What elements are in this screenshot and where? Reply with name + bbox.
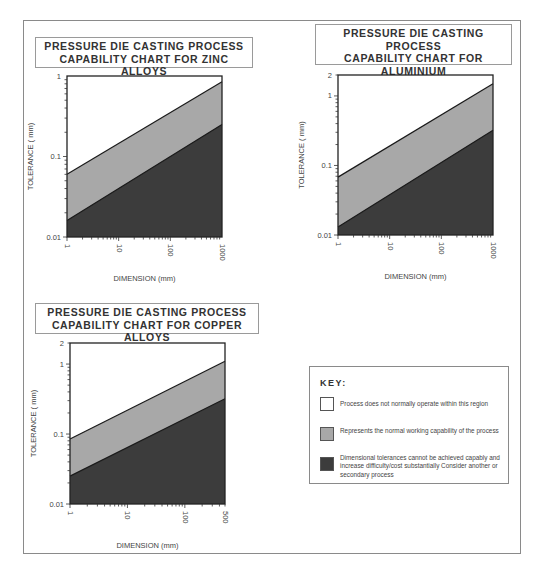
x-tick-label: 10 xyxy=(123,511,132,519)
light-grey-swatch-icon xyxy=(320,427,334,441)
y-axis-label: TOLERANCE ( mm) xyxy=(29,389,38,457)
legend-key: KEY: Process does not normally operate w… xyxy=(309,366,509,484)
key-title: KEY: xyxy=(320,378,347,388)
key-item-label: Process does not normally operate within… xyxy=(340,397,500,408)
x-tick-label: 100 xyxy=(181,511,190,524)
key-item-label: Represents the normal working capability… xyxy=(340,427,500,435)
y-tick-label: 1 xyxy=(60,360,64,369)
key-item-normal-capability: Represents the normal working capability… xyxy=(320,427,500,441)
copper-chart: 0.010.112110100500DIMENSION (mm)TOLERANC… xyxy=(0,0,539,570)
y-tick-label: 0.01 xyxy=(49,500,64,509)
dark-grey-swatch-icon xyxy=(320,457,334,471)
x-axis-label: DIMENSION (mm) xyxy=(116,541,179,550)
x-tick-label: 500 xyxy=(221,511,230,524)
x-tick-label: 1 xyxy=(66,511,75,515)
white-swatch-icon xyxy=(320,397,334,411)
key-item-no-operation: Process does not normally operate within… xyxy=(320,397,500,411)
key-item-label: Dimensional tolerances cannot be achieve… xyxy=(340,454,500,479)
y-tick-label: 2 xyxy=(60,339,64,348)
key-item-not-achievable: Dimensional tolerances cannot be achieve… xyxy=(320,454,500,479)
y-tick-label: 0.1 xyxy=(54,430,64,439)
